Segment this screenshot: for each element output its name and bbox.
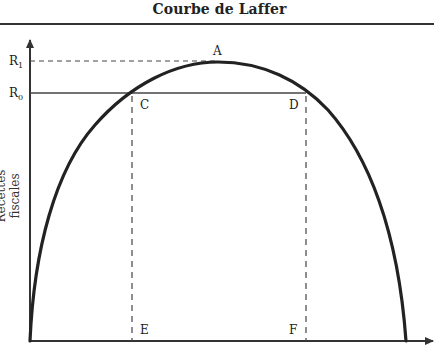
laffer-curve <box>30 62 406 341</box>
r1-label: R1 <box>9 54 23 70</box>
laffer-diagram: R1 R0 A C D E F <box>0 0 439 346</box>
point-e-label: E <box>140 323 149 337</box>
y-axis-label: Recettes fiscales <box>0 146 22 246</box>
point-d-label: D <box>289 98 299 112</box>
point-a-label: A <box>212 44 222 58</box>
r0-label: R0 <box>9 86 23 102</box>
point-c-label: C <box>140 98 149 112</box>
point-f-label: F <box>289 323 297 337</box>
